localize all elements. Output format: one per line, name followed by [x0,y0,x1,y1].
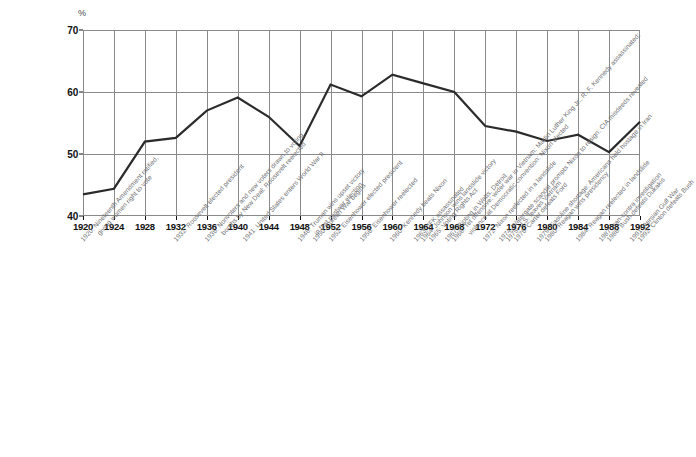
x-tick-mark-1992 [640,216,641,220]
x-tick-mark-1920 [83,216,84,220]
x-tick-mark-1956 [362,216,363,220]
x-tick-mark-1948 [300,216,301,220]
x-tick-mark-1988 [609,216,610,220]
x-tick-mark-1928 [145,216,146,220]
x-tick-mark-1964 [423,216,424,220]
y-axis-unit-label: % [78,8,86,18]
y-tick-label-50: 50 [67,149,78,160]
x-tick-mark-1984 [578,216,579,220]
x-tick-label-1928: 1928 [135,221,155,232]
x-tick-mark-1932 [176,216,177,220]
event-annotations: 1920: Nineteenth Amendment ratified,givi… [0,232,663,457]
x-tick-mark-1936 [207,216,208,220]
y-tick-label-40: 40 [67,211,78,222]
x-tick-mark-1980 [547,216,548,220]
y-tick-label-60: 60 [67,87,78,98]
y-tick-label-70: 70 [67,25,78,36]
x-tick-mark-1960 [392,216,393,220]
